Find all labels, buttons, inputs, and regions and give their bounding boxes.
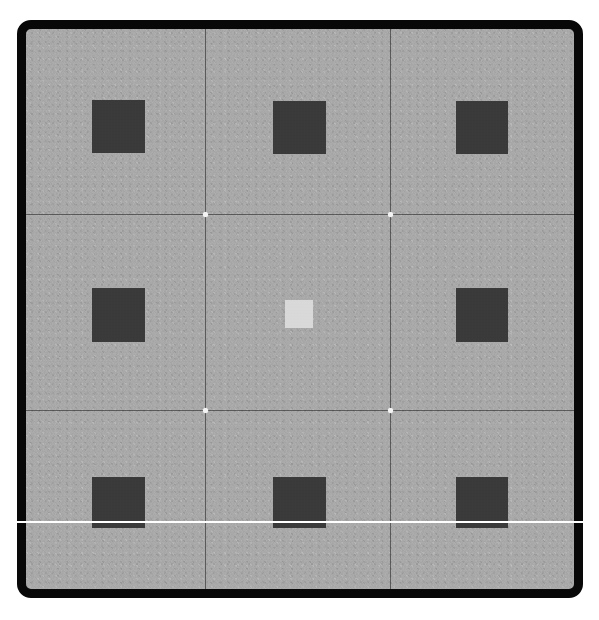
white-scan-line — [0, 521, 599, 523]
outer-border-frame — [17, 20, 583, 598]
calibration-chart-image: Grayscale calibration test chart 3x3 gri… — [0, 0, 599, 620]
